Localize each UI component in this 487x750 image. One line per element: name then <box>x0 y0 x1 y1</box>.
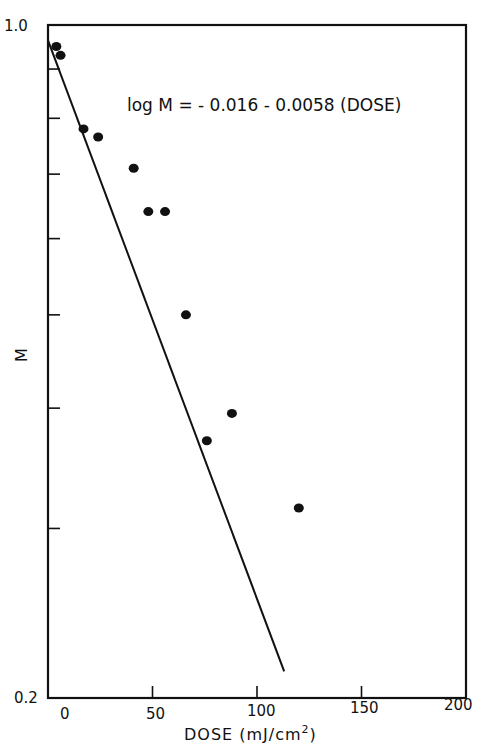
data-point <box>181 310 191 319</box>
data-point <box>93 133 103 142</box>
x-axis-label: DOSE (mJ/cm2) <box>184 723 317 744</box>
y-axis-label: M <box>12 347 31 362</box>
x-tick-label-0: 0 <box>60 705 70 723</box>
data-point <box>294 504 304 513</box>
data-point <box>56 51 66 60</box>
x-tick-label-50: 50 <box>146 705 165 723</box>
y-tick-label-bottom: 0.2 <box>14 689 38 707</box>
y-tick-label-top: 1.0 <box>4 17 28 35</box>
x-tick-label-200: 200 <box>444 696 473 714</box>
fit-line <box>48 40 284 671</box>
y-axis-ticks <box>48 69 60 528</box>
x-tick-label-150: 150 <box>350 699 379 717</box>
data-point <box>227 409 237 418</box>
data-point <box>51 42 61 51</box>
data-point <box>129 164 139 173</box>
data-point <box>143 207 153 216</box>
x-axis-ticks <box>153 686 362 698</box>
chart: 1.0 0.2 0 50 100 150 200 DOSE (mJ/cm2) M… <box>0 0 487 750</box>
data-point <box>79 124 89 133</box>
data-point <box>160 207 170 216</box>
fit-equation: log M = - 0.016 - 0.0058 (DOSE) <box>127 95 401 115</box>
x-tick-label-100: 100 <box>247 702 276 720</box>
data-point <box>202 436 212 445</box>
